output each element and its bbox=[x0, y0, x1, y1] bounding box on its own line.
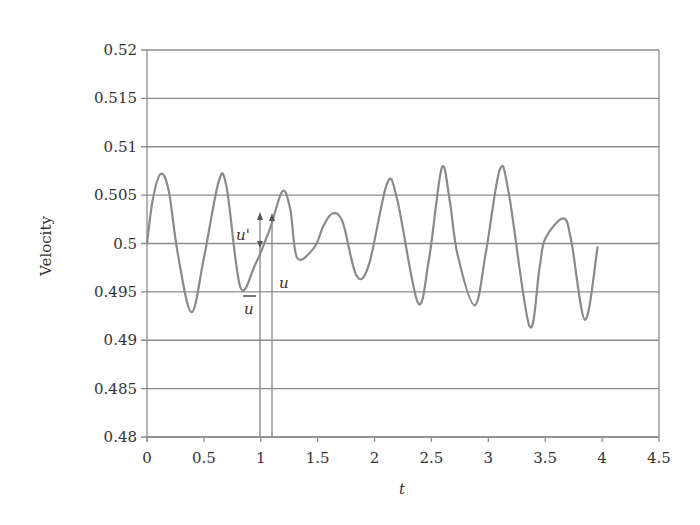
gridlines bbox=[141, 50, 659, 437]
u-prime-label: u' bbox=[236, 226, 250, 244]
u-label: u bbox=[279, 274, 289, 292]
y-tick-label: 0.5 bbox=[113, 235, 137, 253]
x-tick-labels: 00.511.522.533.544.5 bbox=[142, 449, 671, 467]
y-tick-labels: 0.480.4850.490.4950.50.5050.510.5150.52 bbox=[94, 41, 137, 446]
velocity-series-line bbox=[147, 166, 598, 328]
y-tick-label: 0.48 bbox=[104, 428, 137, 446]
x-tick-label: 3 bbox=[484, 449, 494, 467]
y-tick-label: 0.51 bbox=[104, 138, 137, 156]
y-tick-label: 0.495 bbox=[94, 283, 137, 301]
x-tick-label: 1 bbox=[256, 449, 266, 467]
y-tick-label: 0.49 bbox=[104, 331, 137, 349]
u-bar-arrowhead-icon bbox=[257, 212, 263, 220]
x-tick-label: 4 bbox=[597, 449, 607, 467]
u-bar-label: u bbox=[244, 300, 254, 318]
x-axis-title: t bbox=[399, 480, 406, 498]
x-tick-label: 2.5 bbox=[420, 449, 444, 467]
x-tick-label: 0 bbox=[142, 449, 152, 467]
x-tick-label: 2 bbox=[370, 449, 380, 467]
y-tick-label: 0.515 bbox=[94, 89, 137, 107]
y-tick-label: 0.505 bbox=[94, 186, 137, 204]
velocity-chart: 0.480.4850.490.4950.50.5050.510.5150.52 … bbox=[0, 0, 700, 525]
x-tick-label: 3.5 bbox=[533, 449, 557, 467]
x-tick-label: 0.5 bbox=[192, 449, 216, 467]
y-axis-title: Velocity bbox=[37, 216, 55, 277]
y-tick-label: 0.52 bbox=[104, 41, 137, 59]
x-tick-label: 4.5 bbox=[647, 449, 671, 467]
y-tick-label: 0.485 bbox=[94, 380, 137, 398]
axes bbox=[147, 50, 659, 442]
x-tick-label: 1.5 bbox=[306, 449, 330, 467]
